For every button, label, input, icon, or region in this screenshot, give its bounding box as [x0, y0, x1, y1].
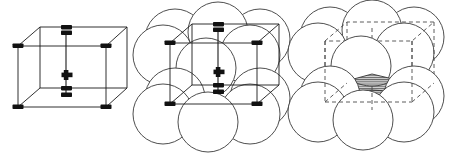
- corner-atom-front-top-left: [165, 41, 176, 45]
- corner-atom-back-top-mid: [61, 25, 72, 29]
- panel-hard-sphere-packing: [133, 2, 290, 152]
- corner-atom-front-bottom-left: [13, 105, 24, 109]
- corner-atom-front-bottom-right: [252, 102, 263, 106]
- corner-atom-back-top-mid: [213, 22, 224, 26]
- corner-atom-back-top-left: [61, 31, 72, 35]
- sphere-front-bottom-mid: [178, 92, 238, 152]
- corner-atom-back-bottom-mid: [61, 93, 72, 97]
- corner-atom-front-bottom-left: [165, 102, 176, 106]
- corner-atom-back-bottom-left: [61, 86, 72, 90]
- body-center-plus-vertical: [64, 70, 69, 80]
- body-center-plus-vertical: [216, 67, 221, 77]
- sphere-group-panel2: [133, 2, 290, 152]
- corner-atom-front-bottom-right: [101, 105, 112, 109]
- corner-atom-front-top-left: [13, 44, 24, 48]
- panel-interstitial-site: [288, 0, 444, 150]
- corner-atom-back-top-left: [213, 28, 224, 32]
- sphere-front-bottom-mid: [333, 90, 393, 150]
- corner-atom-back-bottom-mid: [213, 90, 224, 94]
- figure-root: [0, 0, 455, 157]
- corner-atom-front-top-right: [101, 44, 112, 48]
- corner-atom-back-bottom-left: [213, 83, 224, 87]
- corner-atom-front-top-right: [252, 41, 263, 45]
- crystal-structure-figure: [0, 0, 455, 157]
